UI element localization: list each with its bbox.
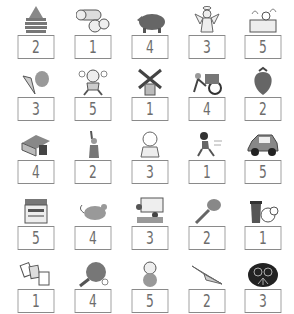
number-label: 2 (203, 291, 211, 311)
mouse-icon (73, 191, 113, 225)
number-box[interactable]: 4 (189, 97, 226, 121)
grid-cell: 4 (13, 125, 59, 185)
stacked-pancake-icon (16, 0, 56, 34)
number-label: 4 (32, 162, 40, 182)
number-label: 1 (32, 291, 40, 311)
grid-cell: 3 (127, 191, 173, 251)
number-box[interactable]: 5 (245, 35, 282, 59)
number-box[interactable]: 1 (189, 160, 226, 184)
number-label: 2 (32, 37, 40, 57)
number-label: 4 (89, 291, 97, 311)
grid-cell: 5 (127, 254, 173, 314)
number-label: 2 (259, 99, 267, 119)
number-box[interactable]: 3 (18, 97, 55, 121)
playing-cards-icon (16, 254, 56, 288)
owl-icon (130, 254, 170, 288)
number-box[interactable]: 2 (189, 289, 226, 313)
number-label: 1 (146, 99, 154, 119)
number-box[interactable]: 1 (75, 35, 112, 59)
number-box[interactable]: 4 (132, 35, 169, 59)
number-box[interactable]: 4 (18, 160, 55, 184)
number-box[interactable]: 5 (18, 226, 55, 250)
logs-icon (73, 0, 113, 34)
grid-cell: 1 (240, 191, 286, 251)
number-box[interactable]: 5 (75, 97, 112, 121)
grid-cell: 3 (13, 62, 59, 122)
number-label: 5 (259, 37, 267, 57)
grid-cell: 3 (127, 125, 173, 185)
number-box[interactable]: 5 (132, 289, 169, 313)
number-box[interactable]: 3 (189, 35, 226, 59)
grid-cell: 5 (70, 62, 116, 122)
grid-cell: 4 (184, 62, 230, 122)
number-label: 3 (32, 99, 40, 119)
baby-icon (130, 125, 170, 159)
number-box[interactable]: 4 (75, 226, 112, 250)
number-box[interactable]: 4 (75, 289, 112, 313)
grid-cell: 1 (13, 254, 59, 314)
number-box[interactable]: 1 (18, 289, 55, 313)
bath-icon (243, 0, 283, 34)
grid-cell: 4 (70, 191, 116, 251)
angel-icon (187, 0, 227, 34)
number-box[interactable]: 1 (245, 226, 282, 250)
shells-icon (16, 62, 56, 96)
car-icon (243, 125, 283, 159)
number-box[interactable]: 2 (18, 35, 55, 59)
number-box[interactable]: 3 (132, 160, 169, 184)
number-box[interactable]: 2 (75, 160, 112, 184)
paper-airplane-icon (187, 254, 227, 288)
statue-of-liberty-icon (73, 125, 113, 159)
grid-cell: 5 (13, 191, 59, 251)
grid-cell: 2 (13, 0, 59, 60)
windmill-icon (130, 62, 170, 96)
grid-cell: 1 (184, 125, 230, 185)
number-box[interactable]: 2 (189, 226, 226, 250)
number-label: 5 (259, 162, 267, 182)
number-label: 3 (203, 37, 211, 57)
crying-child-icon (73, 62, 113, 96)
number-box[interactable]: 5 (245, 160, 282, 184)
key-icon (187, 191, 227, 225)
running-boy-icon (187, 125, 227, 159)
number-label: 5 (146, 291, 154, 311)
grid-cell: 5 (240, 125, 286, 185)
number-label: 3 (146, 162, 154, 182)
grid-cell: 4 (70, 254, 116, 314)
trash-can-icon (243, 191, 283, 225)
grid-cell: 1 (127, 62, 173, 122)
number-label: 4 (203, 99, 211, 119)
grid-cell: 1 (70, 0, 116, 60)
number-label: 2 (203, 228, 211, 248)
classroom-icon (130, 191, 170, 225)
fireworks-icon (243, 254, 283, 288)
grid-cell: 5 (240, 0, 286, 60)
grid-cell: 2 (184, 191, 230, 251)
number-box[interactable]: 1 (132, 97, 169, 121)
kotatsu-icon (16, 125, 56, 159)
number-label: 1 (89, 37, 97, 57)
number-box[interactable]: 2 (245, 97, 282, 121)
number-label: 5 (89, 99, 97, 119)
number-label: 5 (32, 228, 40, 248)
copier-icon (16, 191, 56, 225)
grid-cell: 2 (184, 254, 230, 314)
grid-cell: 4 (127, 0, 173, 60)
number-label: 4 (146, 37, 154, 57)
number-label: 1 (203, 162, 211, 182)
number-label: 3 (146, 228, 154, 248)
number-label: 3 (259, 291, 267, 311)
ping-pong-paddle-icon (73, 254, 113, 288)
number-box[interactable]: 3 (132, 226, 169, 250)
grid-cell: 3 (240, 254, 286, 314)
grid-cell: 2 (70, 125, 116, 185)
number-box[interactable]: 3 (245, 289, 282, 313)
rickshaw-icon (187, 62, 227, 96)
number-label: 1 (259, 228, 267, 248)
number-label: 2 (89, 162, 97, 182)
number-label: 4 (89, 228, 97, 248)
grid-cell: 3 (184, 0, 230, 60)
boar-icon (130, 0, 170, 34)
strawberry-icon (243, 62, 283, 96)
grid-cell: 2 (240, 62, 286, 122)
